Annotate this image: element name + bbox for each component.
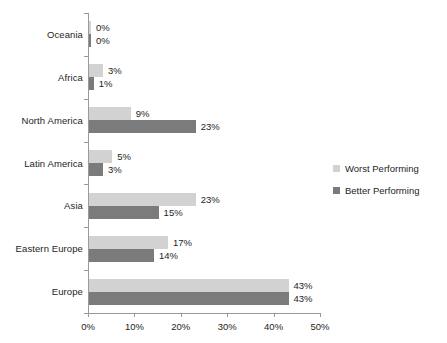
category-axis-labels: OceaniaAfricaNorth AmericaLatin AmericaA… [0, 13, 83, 313]
y-axis-tick [84, 56, 88, 57]
bar-value-label: 1% [99, 78, 113, 89]
legend-item[interactable]: Worst Performing [333, 160, 447, 177]
legend-label: Worst Performing [345, 163, 419, 174]
y-axis-tick [84, 13, 88, 14]
x-axis-tick [320, 313, 321, 317]
bar-value-label: 14% [159, 250, 178, 261]
chart-legend: Worst PerformingBetter Performing [333, 160, 447, 204]
bar [89, 163, 103, 176]
legend-swatch-icon [333, 165, 340, 172]
bar-value-label: 15% [164, 207, 183, 218]
category-label: North America [0, 115, 83, 126]
x-axis-tick-label: 40% [264, 321, 283, 332]
bar [89, 107, 131, 120]
x-axis-tick [227, 313, 228, 317]
bar [89, 249, 154, 262]
bar-value-label: 5% [117, 151, 131, 162]
bar-value-label: 23% [201, 194, 220, 205]
bar [89, 206, 159, 219]
x-axis-line [88, 313, 320, 314]
x-axis-tick [134, 313, 135, 317]
legend-item[interactable]: Better Performing [333, 182, 447, 199]
category-label: Oceania [0, 29, 83, 40]
x-axis-tick [181, 313, 182, 317]
plot-area: 0%10%20%30%40%50%0%0%3%1%9%23%5%3%23%15%… [88, 13, 320, 313]
x-axis-tick-label: 0% [81, 321, 95, 332]
bar [89, 64, 103, 77]
y-axis-tick [84, 99, 88, 100]
bar-value-label: 0% [96, 22, 110, 33]
x-axis-tick [274, 313, 275, 317]
bar [89, 77, 94, 90]
category-label: Africa [0, 72, 83, 83]
bar [89, 21, 91, 34]
bar [89, 236, 168, 249]
bar-value-label: 43% [294, 293, 313, 304]
category-label: Eastern Europe [0, 243, 83, 254]
y-axis-tick [84, 227, 88, 228]
x-axis-tick-label: 10% [125, 321, 144, 332]
category-label: Latin America [0, 158, 83, 169]
y-axis-tick [84, 142, 88, 143]
bar [89, 150, 112, 163]
bar-value-label: 43% [294, 280, 313, 291]
category-label: Asia [0, 200, 83, 211]
y-axis-tick [84, 313, 88, 314]
bar-chart: OceaniaAfricaNorth AmericaLatin AmericaA… [0, 0, 447, 343]
x-axis-tick [88, 313, 89, 317]
category-label: Europe [0, 286, 83, 297]
bar [89, 279, 289, 292]
bar [89, 193, 196, 206]
x-axis-tick-label: 50% [310, 321, 329, 332]
bar-value-label: 3% [108, 65, 122, 76]
legend-label: Better Performing [345, 185, 419, 196]
legend-swatch-icon [333, 187, 340, 194]
y-axis-tick [84, 270, 88, 271]
bar-value-label: 23% [201, 121, 220, 132]
bar [89, 292, 289, 305]
bar-value-label: 9% [136, 108, 150, 119]
x-axis-tick-label: 30% [218, 321, 237, 332]
y-axis-tick [84, 184, 88, 185]
bar [89, 120, 196, 133]
bar [89, 34, 91, 47]
bar-value-label: 0% [96, 35, 110, 46]
bar-value-label: 3% [108, 164, 122, 175]
x-axis-tick-label: 20% [171, 321, 190, 332]
bar-value-label: 17% [173, 237, 192, 248]
